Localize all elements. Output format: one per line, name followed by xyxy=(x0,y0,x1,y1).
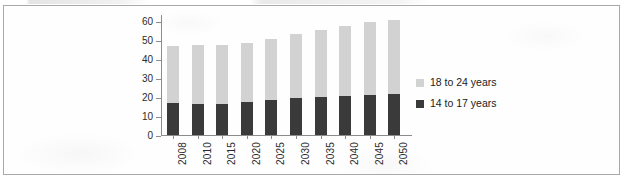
y-axis-tick xyxy=(156,79,161,80)
bar-segment-18-to-24 xyxy=(290,34,302,99)
x-axis-tick xyxy=(173,135,174,139)
x-axis-tick xyxy=(198,135,199,139)
stacked-bar xyxy=(388,20,400,136)
chart-legend: 18 to 24 years 14 to 17 years xyxy=(416,74,497,116)
y-axis-tick-label: 50 xyxy=(124,36,153,46)
y-axis-tick-label: 40 xyxy=(124,55,153,65)
bar-segment-14-to-17 xyxy=(265,100,277,135)
x-axis-category-label: 2045 xyxy=(375,142,385,165)
y-axis-tick-label: 60 xyxy=(124,17,153,27)
stacked-bar xyxy=(339,26,351,135)
bar-segment-18-to-24 xyxy=(315,30,327,97)
y-axis-tick xyxy=(156,136,161,137)
stacked-bar xyxy=(265,39,277,136)
bar-segment-18-to-24 xyxy=(364,22,376,94)
y-axis-tick xyxy=(156,60,161,61)
bar-segment-18-to-24 xyxy=(241,43,253,102)
bar-segment-14-to-17 xyxy=(290,98,302,135)
bar-segment-14-to-17 xyxy=(167,103,179,135)
x-axis-category-label: 2010 xyxy=(203,142,213,165)
x-axis-category-label: 2035 xyxy=(326,142,336,165)
x-axis-category-label: 2040 xyxy=(350,142,360,165)
x-axis-category-label: 2050 xyxy=(399,142,409,165)
figure-frame: 0102030405060 20082010201520202025203020… xyxy=(3,5,620,175)
x-axis-category-label: 2025 xyxy=(276,142,286,165)
stacked-bar-chart: 0102030405060 20082010201520202025203020… xyxy=(4,6,621,176)
y-axis-line xyxy=(161,15,162,136)
bar-segment-14-to-17 xyxy=(216,104,228,135)
y-axis-tick xyxy=(156,22,161,23)
legend-label: 14 to 17 years xyxy=(430,98,497,109)
x-axis-tick xyxy=(321,135,322,139)
legend-item: 14 to 17 years xyxy=(416,95,497,112)
bar-segment-14-to-17 xyxy=(315,97,327,135)
scan-artifact-strip xyxy=(0,0,633,4)
x-axis-tick xyxy=(247,135,248,139)
legend-label: 18 to 24 years xyxy=(430,77,497,88)
x-axis-category-label: 2015 xyxy=(227,142,237,165)
x-axis-tick xyxy=(271,135,272,139)
bar-segment-18-to-24 xyxy=(388,20,400,94)
bar-segment-14-to-17 xyxy=(192,104,204,135)
bar-segment-18-to-24 xyxy=(339,26,351,95)
stacked-bar xyxy=(167,46,179,135)
legend-item: 18 to 24 years xyxy=(416,74,497,91)
y-axis-tick xyxy=(156,98,161,99)
bar-segment-18-to-24 xyxy=(192,45,204,104)
stacked-bar xyxy=(216,45,228,135)
y-axis-tick xyxy=(156,41,161,42)
bar-segment-18-to-24 xyxy=(265,39,277,101)
x-axis-tick xyxy=(345,135,346,139)
bar-segment-14-to-17 xyxy=(241,102,253,135)
stacked-bar xyxy=(315,30,327,135)
stacked-bar xyxy=(241,43,253,135)
bar-segment-14-to-17 xyxy=(339,96,351,136)
x-axis-category-label: 2008 xyxy=(178,142,188,165)
y-axis-tick xyxy=(156,117,161,118)
x-axis-category-label: 2020 xyxy=(252,142,262,165)
bar-segment-18-to-24 xyxy=(216,45,228,104)
y-axis-tick-label: 20 xyxy=(124,93,153,103)
bar-segment-14-to-17 xyxy=(364,95,376,136)
legend-swatch-18-to-24 xyxy=(416,79,424,87)
x-axis-tick xyxy=(222,135,223,139)
bar-segment-18-to-24 xyxy=(167,46,179,103)
stacked-bar xyxy=(290,34,302,136)
x-axis-category-label: 2030 xyxy=(301,142,311,165)
x-axis-tick xyxy=(296,135,297,139)
legend-swatch-14-to-17 xyxy=(416,100,424,108)
x-axis-tick xyxy=(394,135,395,139)
y-axis-tick-label: 30 xyxy=(124,74,153,84)
x-axis-tick xyxy=(370,135,371,139)
stacked-bar xyxy=(192,45,204,135)
y-axis-tick-label: 10 xyxy=(124,112,153,122)
y-axis-tick-label: 0 xyxy=(124,131,153,141)
stacked-bar xyxy=(364,22,376,135)
bar-segment-14-to-17 xyxy=(388,94,400,136)
